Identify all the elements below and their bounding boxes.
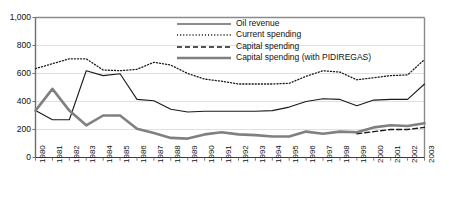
series-line-3 [36, 89, 425, 139]
x-tick-label: 1989 [191, 145, 199, 163]
x-tick-label: 1991 [225, 145, 233, 163]
x-tick-label: 1981 [56, 145, 64, 163]
legend-swatch-dotted-icon [176, 30, 232, 40]
x-tick-label: 1987 [157, 145, 165, 163]
legend-swatch-solid-thin-icon [176, 19, 232, 29]
x-tick-label: 1996 [309, 145, 317, 163]
x-tick-label: 1999 [360, 145, 368, 163]
x-tick-label: 2003 [428, 145, 436, 163]
x-tick-label: 2000 [377, 145, 385, 163]
x-tick-label: 1988 [174, 145, 182, 163]
x-tick-label: 2001 [394, 145, 402, 163]
legend-label-0: Oil revenue [236, 18, 279, 28]
y-tick-label: 800 [1, 41, 31, 50]
legend-label-2: Capital spending [236, 41, 299, 51]
oil-revenue-spending-chart: 02004006008001,000 198019811982198319841… [0, 0, 449, 212]
x-tick-label: 1997 [326, 145, 334, 163]
x-tick-label: 1993 [259, 145, 267, 163]
x-tick-label: 2002 [411, 145, 419, 163]
x-tick-label: 1980 [39, 145, 47, 163]
y-tick-label: 400 [1, 97, 31, 106]
x-tick-label: 1984 [106, 145, 114, 163]
x-tick-label: 1985 [123, 145, 131, 163]
x-tick-label: 1990 [208, 145, 216, 163]
legend-swatch-solid-thick-icon [176, 53, 232, 63]
x-tick-label: 1983 [89, 145, 97, 163]
x-tick-label: 1994 [275, 145, 283, 163]
legend-swatch-dashed-icon [176, 42, 232, 52]
legend-label-1: Current spending [236, 29, 301, 39]
data-series-layer [36, 59, 425, 139]
x-tick-label: 1982 [73, 145, 81, 163]
y-tick-label: 0 [1, 153, 31, 162]
x-tick-label: 1998 [343, 145, 351, 163]
x-tick-label: 1995 [292, 145, 300, 163]
y-tick-label: 200 [1, 125, 31, 134]
legend-label-3: Capital spending (with PIDIREGAS) [236, 52, 371, 62]
x-tick-label: 1992 [242, 145, 250, 163]
y-tick-label: 600 [1, 69, 31, 78]
y-tick-label: 1,000 [1, 13, 31, 22]
x-tick-label: 1986 [140, 145, 148, 163]
